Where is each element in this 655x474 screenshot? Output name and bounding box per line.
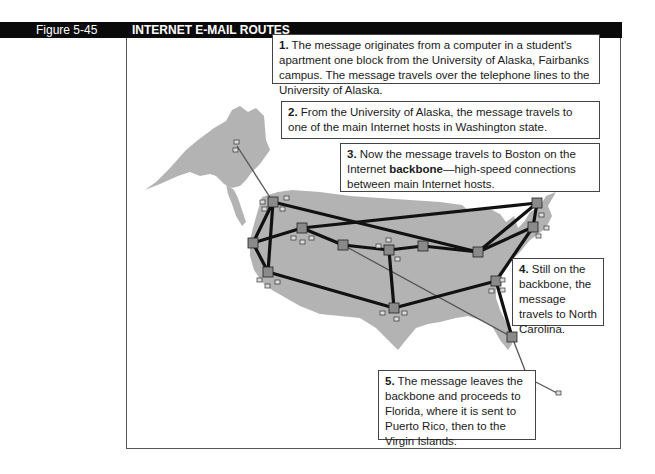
callout-step-5: 5. The message leaves the backbone and p… xyxy=(378,370,536,440)
step-number: 3. xyxy=(347,148,357,160)
figure-frame xyxy=(126,38,621,449)
step-text: Still on the backbone, the message trave… xyxy=(519,263,597,335)
step-text: From the University of Alaska, the messa… xyxy=(288,106,572,133)
step-text: The message leaves the backbone and proc… xyxy=(385,375,523,447)
callout-step-3: 3. Now the message travels to Boston on … xyxy=(340,143,600,192)
callout-step-1: 1. The message originates from a compute… xyxy=(272,34,600,84)
step-number: 1. xyxy=(279,39,289,51)
backbone-term: backbone xyxy=(389,163,443,175)
step-number: 2. xyxy=(288,106,298,118)
step-number: 5. xyxy=(385,375,395,387)
step-number: 4. xyxy=(519,263,529,275)
callout-step-4: 4. Still on the backbone, the message tr… xyxy=(512,258,604,326)
callout-step-2: 2. From the University of Alaska, the me… xyxy=(281,101,600,139)
